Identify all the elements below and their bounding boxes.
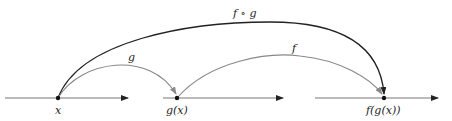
- label-x: x: [55, 104, 62, 117]
- diagram-canvas: x g(x) f(g(x)) g f f ∘ g: [0, 0, 452, 121]
- arrow-g: [58, 65, 176, 98]
- point-x: [56, 96, 60, 100]
- point-gx: [175, 96, 179, 100]
- composition-diagram: x g(x) f(g(x)) g f f ∘ g: [0, 0, 452, 121]
- label-f-compose-g: f ∘ g: [232, 7, 257, 20]
- arrow-f: [177, 55, 382, 98]
- label-g: g: [128, 51, 135, 64]
- label-gx: g(x): [166, 104, 188, 117]
- label-fgx: f(g(x)): [365, 104, 400, 117]
- label-f: f: [291, 42, 298, 55]
- point-fgx: [382, 96, 386, 100]
- arrow-f-compose-g: [58, 22, 384, 98]
